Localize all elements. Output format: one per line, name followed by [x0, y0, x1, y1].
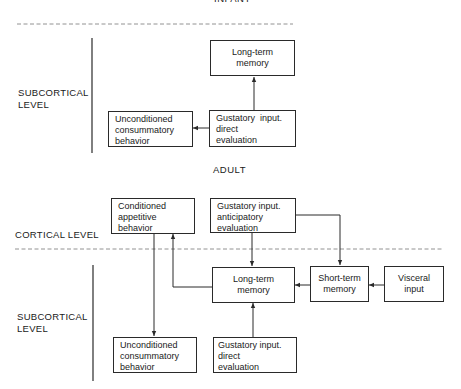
- box-text: memory: [217, 58, 288, 69]
- box-text: direct: [216, 124, 289, 135]
- box-text: behavior: [120, 362, 190, 373]
- box-text: behavior: [118, 223, 188, 234]
- infant-subcortical-level-label: SUBCORTICAL LEVEL: [18, 87, 89, 111]
- adult-subcortical-level-label: SUBCORTICAL LEVEL: [17, 311, 88, 335]
- box-text: appetitive: [118, 212, 188, 223]
- box-text: memory: [314, 284, 365, 295]
- box-text: consummatory: [120, 351, 190, 362]
- box-text: input: [391, 284, 437, 295]
- box-text: anticipatory: [217, 212, 289, 223]
- box-text: Long-term: [217, 47, 288, 58]
- box-text: memory: [219, 285, 288, 296]
- infant-section-title: INFANT: [214, 0, 251, 4]
- box-text: consummatory: [115, 125, 186, 136]
- adult-short-term-memory-box: Short-term memory: [310, 266, 369, 302]
- box-text: direct: [218, 351, 292, 362]
- label-line: LEVEL: [18, 99, 89, 111]
- adult-long-term-memory-box: Long-term memory: [212, 267, 295, 303]
- adult-section-title: ADULT: [213, 164, 246, 175]
- box-text: evaluation: [216, 135, 289, 146]
- box-text: behavior: [115, 136, 186, 147]
- adult-gustatory-anticipatory-box: Gustatory input. anticipatory evaluation: [210, 198, 296, 233]
- adult-gustatory-direct-box: Gustatory input. direct evaluation: [213, 337, 297, 373]
- infant-gustatory-direct-box: Gustatory input. direct evaluation: [209, 110, 296, 147]
- box-text: Short-term: [314, 273, 365, 284]
- box-text: Visceral: [391, 273, 437, 284]
- box-text: Gustatory input.: [216, 113, 289, 124]
- adult-unconditioned-behavior-box: Unconditioned consummatory behavior: [113, 337, 197, 373]
- infant-long-term-memory-box: Long-term memory: [210, 40, 295, 76]
- box-text: Conditioned: [118, 201, 188, 212]
- box-text: Unconditioned: [120, 340, 190, 351]
- adult-cortical-level-label: CORTICAL LEVEL: [15, 229, 99, 241]
- box-text: Gustatory input.: [218, 340, 292, 351]
- adult-conditioned-behavior-box: Conditioned appetitive behavior: [111, 198, 195, 234]
- label-line: LEVEL: [17, 323, 88, 335]
- box-text: Gustatory input.: [217, 201, 289, 212]
- box-text: evaluation: [217, 223, 289, 234]
- arrow-ltm-to-conditioned: [173, 234, 212, 287]
- box-text: Long-term: [219, 274, 288, 285]
- adult-visceral-input-box: Visceral input: [384, 266, 444, 302]
- box-text: evaluation: [218, 362, 292, 373]
- label-line: SUBCORTICAL: [18, 87, 89, 99]
- arrow-anticipatory-to-stm: [295, 215, 340, 265]
- box-text: Unconditioned: [115, 114, 186, 125]
- label-line: SUBCORTICAL: [17, 311, 88, 323]
- infant-unconditioned-behavior-box: Unconditioned consummatory behavior: [108, 111, 193, 147]
